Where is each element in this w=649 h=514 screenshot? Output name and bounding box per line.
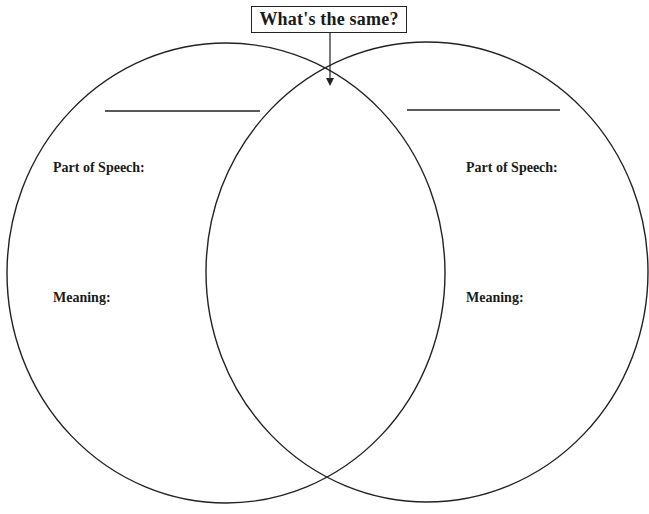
left-circle	[7, 43, 445, 503]
down-arrow-icon	[326, 33, 334, 86]
venn-diagram	[0, 0, 649, 514]
left-meaning-label: Meaning:	[53, 290, 111, 306]
left-part-of-speech-label: Part of Speech:	[53, 160, 145, 176]
overlap-title: What's the same?	[259, 9, 398, 30]
overlap-title-box: What's the same?	[251, 6, 407, 33]
right-circle	[206, 42, 648, 502]
right-meaning-label: Meaning:	[466, 290, 524, 306]
right-part-of-speech-label: Part of Speech:	[466, 160, 558, 176]
